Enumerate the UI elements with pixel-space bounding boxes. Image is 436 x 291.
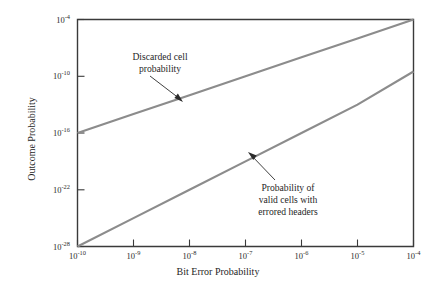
y-ticklabel-1e-16: 10-16 bbox=[44, 129, 70, 138]
annotation-valid-line3: errored headers bbox=[258, 206, 317, 218]
y-ticklabel-1e-28: 10-28 bbox=[44, 242, 70, 251]
annotation-discarded-line1: Discarded cell bbox=[132, 51, 187, 63]
annotation-arrow-valid bbox=[248, 152, 275, 180]
x-ticklabel-1e-5: 10-5 bbox=[351, 252, 365, 261]
x-ticklabel-1e-7: 10-7 bbox=[239, 252, 253, 261]
annotation-valid-cells-errored-headers: Probability of valid cells with errored … bbox=[258, 182, 317, 218]
annotation-valid-line2: valid cells with bbox=[258, 194, 317, 206]
plot-frame bbox=[78, 20, 414, 247]
y-axis-title: Outcome Probability bbox=[26, 97, 37, 181]
y-ticklabel-1e-10: 10-10 bbox=[44, 72, 70, 81]
series-valid-cells-errored-headers bbox=[78, 71, 414, 246]
x-axis-title: Bit Error Probability bbox=[177, 266, 260, 277]
x-axis-ticks bbox=[78, 240, 414, 247]
annotation-discarded-line2: probability bbox=[132, 63, 187, 75]
y-ticklabel-1e-22: 10-22 bbox=[44, 186, 70, 195]
annotation-arrow-discarded bbox=[150, 76, 183, 102]
series-group bbox=[78, 20, 414, 247]
x-ticklabel-1e-8: 10-8 bbox=[183, 252, 197, 261]
x-ticklabel-1e-4: 10-4 bbox=[407, 252, 421, 261]
x-ticklabel-1e-9: 10-9 bbox=[127, 252, 141, 261]
chart-figure: 10-10 10-9 10-8 10-7 10-6 10-5 10-4 10-4… bbox=[0, 0, 436, 291]
axes-border bbox=[78, 20, 414, 247]
series-discarded-cell-probability bbox=[78, 20, 414, 134]
annotation-discarded-cell-probability: Discarded cell probability bbox=[132, 51, 187, 75]
y-ticklabel-1e-4: 10-4 bbox=[46, 15, 70, 24]
x-ticklabel-1e-6: 10-6 bbox=[295, 252, 309, 261]
x-ticklabel-1e-10: 10-10 bbox=[69, 252, 86, 261]
annotation-valid-line1: Probability of bbox=[258, 182, 317, 194]
leader-line-valid bbox=[251, 155, 275, 180]
leader-line-discarded bbox=[150, 76, 180, 99]
